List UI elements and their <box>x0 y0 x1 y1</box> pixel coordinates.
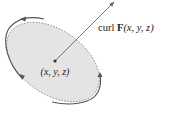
curl-label: curl F(x, y, z) <box>98 22 154 34</box>
arrowhead-top-icon <box>20 17 26 22</box>
point-label: (x, y, z) <box>41 66 71 78</box>
curl-diagram: curl F(x, y, z) (x, y, z) <box>0 0 171 113</box>
point-dot <box>53 59 56 62</box>
